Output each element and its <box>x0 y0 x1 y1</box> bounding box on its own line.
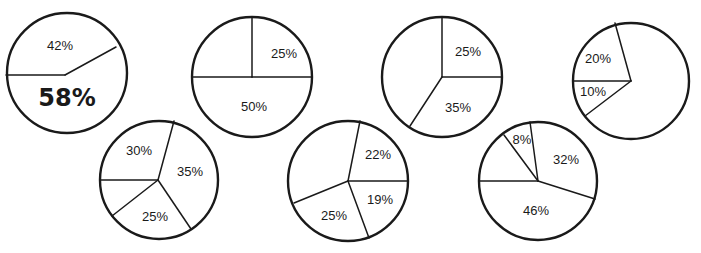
pie-2: 25%50% <box>192 17 312 137</box>
slice-label: 32% <box>553 152 579 167</box>
slice-label: 50% <box>241 99 267 114</box>
slice-label: 25% <box>142 209 168 224</box>
pie-chart-diagram: 42%58%25%50%25%35%20%10%30%35%25%22%19%2… <box>0 0 701 253</box>
slice-label: 10% <box>580 84 606 99</box>
slice-label: 20% <box>585 51 611 66</box>
pie-3: 25%35% <box>382 17 502 137</box>
slice-label: 46% <box>523 203 549 218</box>
pie-4: 20%10% <box>573 23 689 139</box>
slice-label: 30% <box>126 143 152 158</box>
pie-6: 22%19%25% <box>288 121 408 241</box>
pie-5: 30%35%25% <box>100 121 218 239</box>
slice-label: 25% <box>321 208 347 223</box>
slice-label: 25% <box>271 46 297 61</box>
slice-label: 58% <box>38 84 95 112</box>
slice-label: 35% <box>445 100 471 115</box>
slice-label: 25% <box>455 44 481 59</box>
pie-outline <box>7 13 127 133</box>
pie-1: 42%58% <box>6 13 127 133</box>
slice-label: 35% <box>177 164 203 179</box>
slice-label: 8% <box>513 132 532 147</box>
pie-7: 8%32%46% <box>479 122 597 240</box>
slice-label: 19% <box>367 192 393 207</box>
slice-label: 22% <box>365 147 391 162</box>
slice-label: 42% <box>47 38 73 53</box>
